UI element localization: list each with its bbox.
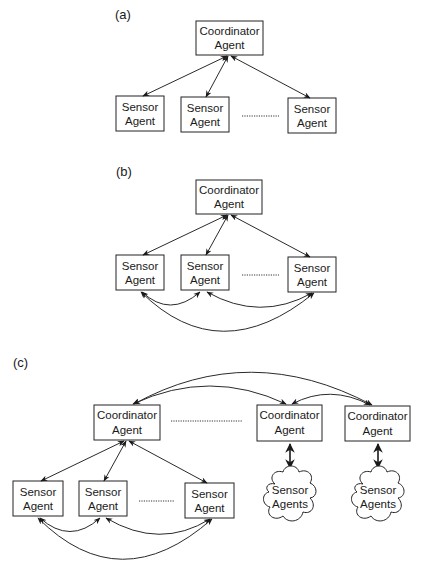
bidirectional-arrow bbox=[231, 215, 310, 257]
panel-b-label: (b) bbox=[116, 164, 132, 179]
peer-arc-arrow bbox=[207, 292, 312, 307]
peer-arc-arrow bbox=[141, 292, 314, 331]
svg-text:Sensor: Sensor bbox=[191, 488, 228, 500]
svg-text:Sensor: Sensor bbox=[20, 486, 57, 498]
bidirectional-arrow bbox=[129, 441, 207, 483]
peer-arc-arrow bbox=[40, 518, 100, 532]
svg-text:Agent: Agent bbox=[194, 502, 225, 514]
svg-text:Sensor: Sensor bbox=[122, 101, 159, 113]
svg-text:Coordinator: Coordinator bbox=[259, 409, 319, 421]
panel-c: (c) Coordinator Agent Coordinator Agent … bbox=[13, 355, 410, 559]
svg-text:Agents: Agents bbox=[272, 498, 308, 510]
svg-text:Agent: Agent bbox=[125, 274, 156, 286]
bidirectional-arrow bbox=[41, 441, 124, 481]
svg-text:Sensor: Sensor bbox=[187, 260, 224, 272]
svg-text:Coordinator: Coordinator bbox=[199, 184, 259, 196]
bidirectional-arrow bbox=[104, 441, 126, 481]
bidirectional-arrow bbox=[143, 56, 227, 96]
peer-arc-arrow bbox=[38, 518, 212, 559]
svg-text:Sensor: Sensor bbox=[187, 102, 224, 114]
coordinator-agent-node: Coordinator Agent bbox=[94, 405, 160, 440]
coordinator-arc-arrow bbox=[134, 372, 372, 405]
peer-arc-arrow bbox=[142, 292, 200, 305]
sensor-agent-node: Sensor Agent bbox=[116, 255, 164, 290]
svg-text:Agent: Agent bbox=[23, 500, 54, 512]
sensor-agent-node: Sensor Agent bbox=[288, 257, 336, 292]
coordinator-agent-node: Coordinator Agent bbox=[257, 405, 322, 441]
svg-text:Agent: Agent bbox=[274, 424, 305, 436]
svg-text:Agent: Agent bbox=[297, 117, 328, 129]
bidirectional-arrow bbox=[206, 215, 228, 255]
svg-text:Sensor: Sensor bbox=[272, 484, 309, 496]
panel-b: (b) Coordinator Agent Sensor Agent Senso… bbox=[116, 164, 336, 331]
panel-a: (a) Coordinator Agent Sensor Agent Senso… bbox=[115, 7, 336, 133]
svg-text:Agent: Agent bbox=[297, 276, 328, 288]
bidirectional-arrow bbox=[231, 56, 310, 98]
svg-text:Sensor: Sensor bbox=[122, 260, 159, 272]
svg-text:Coordinator: Coordinator bbox=[97, 409, 157, 421]
sensor-agent-node: Sensor Agent bbox=[13, 481, 63, 516]
svg-text:Agent: Agent bbox=[112, 424, 143, 436]
bidirectional-arrow bbox=[206, 56, 228, 97]
panel-c-label: (c) bbox=[13, 355, 28, 370]
sensor-agent-node: Sensor Agent bbox=[185, 483, 234, 518]
svg-text:Coordinator: Coordinator bbox=[347, 410, 407, 422]
sensor-agent-node: Sensor Agent bbox=[181, 255, 229, 290]
peer-arc-arrow bbox=[106, 518, 210, 534]
svg-text:Agents: Agents bbox=[360, 498, 396, 510]
agent-architecture-diagram: (a) Coordinator Agent Sensor Agent Senso… bbox=[0, 0, 435, 581]
svg-text:Sensor: Sensor bbox=[294, 103, 331, 115]
svg-text:Agent: Agent bbox=[362, 425, 393, 437]
sensor-agent-node: Sensor Agent bbox=[79, 481, 127, 516]
coordinator-arc-arrow bbox=[292, 394, 370, 405]
coordinator-agent-node: Coordinator Agent bbox=[196, 180, 262, 214]
bidirectional-arrow bbox=[143, 215, 227, 255]
sensor-agent-node: Sensor Agent bbox=[181, 97, 229, 132]
coordinator-arc-arrow bbox=[133, 386, 286, 404]
panel-a-label: (a) bbox=[115, 7, 131, 22]
sensor-agent-node: Sensor Agent bbox=[288, 98, 336, 133]
sensor-agents-cloud: Sensor Agents bbox=[263, 466, 316, 521]
svg-text:Agent: Agent bbox=[88, 500, 119, 512]
sensor-agents-cloud: Sensor Agents bbox=[351, 466, 404, 521]
svg-text:Sensor: Sensor bbox=[360, 484, 397, 496]
svg-text:Sensor: Sensor bbox=[85, 486, 122, 498]
svg-text:Agent: Agent bbox=[190, 116, 221, 128]
svg-text:Agent: Agent bbox=[214, 39, 245, 51]
svg-text:Agent: Agent bbox=[190, 274, 221, 286]
svg-text:Sensor: Sensor bbox=[294, 262, 331, 274]
sensor-agent-node: Sensor Agent bbox=[116, 96, 164, 131]
svg-text:Agent: Agent bbox=[214, 198, 245, 210]
svg-text:Agent: Agent bbox=[125, 115, 156, 127]
coordinator-agent-node: Coordinator Agent bbox=[196, 21, 263, 55]
coordinator-agent-node: Coordinator Agent bbox=[345, 406, 410, 441]
svg-text:Coordinator: Coordinator bbox=[199, 25, 259, 37]
